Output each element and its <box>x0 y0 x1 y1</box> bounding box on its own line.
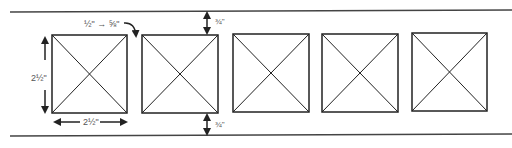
diagram-canvas: 2½" 2½" ½" → ⅝" ¾" ¾" <box>0 0 512 148</box>
bottom-margin-dimension: ¾" <box>207 115 225 134</box>
tile-4 <box>322 34 398 112</box>
tile-height-label: 2½" <box>31 73 47 83</box>
gap-dimension: ½" → ⅝" <box>84 19 136 36</box>
height-dimension: 2½" <box>31 38 47 112</box>
bottom-rule <box>10 134 512 136</box>
top-margin-dimension: ¾" <box>207 13 225 33</box>
tile-row <box>52 33 487 113</box>
tile-5 <box>412 33 487 111</box>
tile-3 <box>233 34 309 112</box>
tile-width-label: 2½" <box>83 117 99 127</box>
bottom-margin-label: ¾" <box>215 120 225 129</box>
gap-label: ½" → ⅝" <box>84 19 119 29</box>
width-dimension: 2½" <box>55 117 126 127</box>
tile-2 <box>142 35 218 113</box>
top-rule <box>10 10 512 12</box>
top-margin-label: ¾" <box>215 17 225 26</box>
tile-layout-diagram: 2½" 2½" ½" → ⅝" ¾" ¾" <box>0 0 512 148</box>
tile-1 <box>52 35 127 113</box>
